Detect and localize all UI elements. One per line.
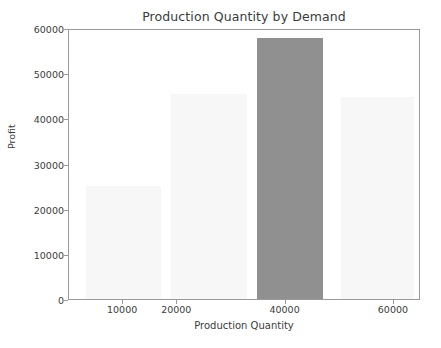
bar-20000[interactable] bbox=[171, 94, 247, 300]
chart-figure: Production Quantity by Demand 0100002000… bbox=[0, 0, 441, 348]
y-tick-label: 20000 bbox=[34, 204, 64, 215]
bar-10000[interactable] bbox=[86, 186, 161, 299]
x-tick-label: 40000 bbox=[269, 304, 299, 315]
y-axis-label: Profit bbox=[6, 124, 17, 149]
y-tick-mark bbox=[64, 74, 68, 75]
y-tick-mark bbox=[64, 119, 68, 120]
y-tick-label: 40000 bbox=[34, 114, 64, 125]
chart-title: Production Quantity by Demand bbox=[68, 9, 420, 24]
plot-area bbox=[68, 29, 420, 300]
y-tick-mark bbox=[64, 165, 68, 166]
y-tick-mark bbox=[64, 210, 68, 211]
x-tick-mark bbox=[122, 300, 123, 304]
x-tick-label: 60000 bbox=[378, 304, 408, 315]
x-tick-mark bbox=[393, 300, 394, 304]
y-tick-label: 50000 bbox=[34, 69, 64, 80]
bar-60000[interactable] bbox=[341, 97, 414, 299]
x-tick-mark bbox=[176, 300, 177, 304]
x-tick-label: 10000 bbox=[107, 304, 137, 315]
x-tick-mark bbox=[285, 300, 286, 304]
y-tick-label: 10000 bbox=[34, 249, 64, 260]
bar-40000[interactable] bbox=[257, 38, 323, 299]
y-tick-mark bbox=[64, 300, 68, 301]
y-tick-mark bbox=[64, 255, 68, 256]
y-tick-label: 60000 bbox=[34, 24, 64, 35]
y-tick-mark bbox=[64, 29, 68, 30]
x-axis-label: Production Quantity bbox=[68, 320, 420, 331]
y-tick-label: 30000 bbox=[34, 159, 64, 170]
x-tick-label: 20000 bbox=[161, 304, 191, 315]
